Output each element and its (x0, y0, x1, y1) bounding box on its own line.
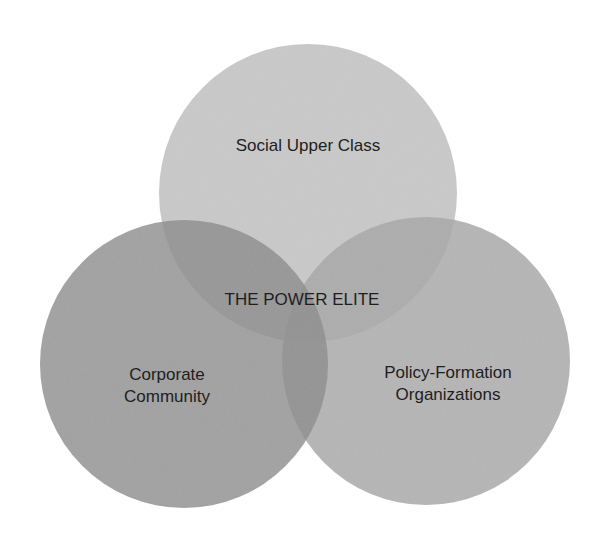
social-upper-class-label: Social Upper Class (236, 135, 381, 157)
corporate-community-label: Corporate Community (124, 364, 210, 408)
policy-formation-line-2: Organizations (384, 384, 512, 406)
power-elite-label: THE POWER ELITE (225, 289, 380, 311)
venn-circles (0, 0, 598, 554)
power-elite-text: THE POWER ELITE (225, 289, 380, 311)
policy-formation-line-1: Policy-Formation (384, 362, 512, 384)
social-upper-class-text: Social Upper Class (236, 135, 381, 157)
power-elite-venn-diagram: Social Upper Class THE POWER ELITE Corpo… (0, 0, 598, 554)
corporate-community-line-1: Corporate (124, 364, 210, 386)
corporate-community-line-2: Community (124, 386, 210, 408)
policy-formation-organizations-label: Policy-Formation Organizations (384, 362, 512, 406)
